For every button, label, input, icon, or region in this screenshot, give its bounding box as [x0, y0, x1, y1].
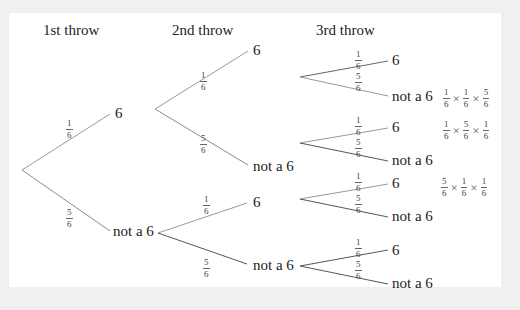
node-t2-not-six-a: not a 6	[253, 159, 294, 174]
header-1st-throw: 1st throw	[43, 23, 99, 38]
prob-t3-4-not-six: 56	[355, 260, 362, 281]
prob-t2b-not-six: 56	[203, 258, 210, 279]
node-t2-six-a: 6	[253, 43, 261, 58]
node-t3-3: 6	[392, 120, 400, 135]
times-icon: ×	[472, 91, 479, 107]
node-t3-8: not a 6	[392, 276, 433, 291]
node-t1-six: 6	[115, 106, 123, 121]
prob-t3-4-six: 16	[355, 238, 362, 259]
node-t2-six-b: 6	[253, 195, 261, 210]
prob-t3-3-not-six: 56	[355, 194, 362, 215]
prob-t1-not-six: 56	[66, 208, 73, 229]
times-icon: ×	[453, 123, 460, 139]
node-t3-6: not a 6	[392, 209, 433, 224]
prob-t2a-not-six: 56	[200, 134, 207, 155]
times-icon: ×	[453, 91, 460, 107]
node-t1-not-six: not a 6	[113, 224, 154, 239]
node-t3-5: 6	[392, 176, 400, 191]
node-t3-1: 6	[392, 53, 400, 68]
product-3: 56 × 16 × 16	[441, 177, 487, 198]
prob-t3-1-not-six: 56	[355, 72, 362, 93]
times-icon: ×	[470, 180, 477, 196]
prob-t3-2-not-six: 56	[355, 138, 362, 159]
product-2: 16 × 56 × 16	[443, 120, 489, 141]
prob-t2b-six: 16	[203, 195, 210, 216]
times-icon: ×	[451, 180, 458, 196]
node-t3-4: not a 6	[392, 153, 433, 168]
prob-t3-1-six: 16	[355, 50, 362, 71]
prob-t1-six: 16	[66, 119, 73, 140]
prob-t2a-six: 16	[200, 71, 207, 92]
node-t2-not-six-b: not a 6	[253, 258, 294, 273]
header-2nd-throw: 2nd throw	[172, 23, 233, 38]
header-3rd-throw: 3rd throw	[316, 23, 375, 38]
prob-t3-2-six: 16	[355, 116, 362, 137]
product-1: 16 × 16 × 56	[443, 88, 489, 109]
prob-t3-3-six: 16	[355, 172, 362, 193]
node-t3-7: 6	[392, 243, 400, 258]
node-t3-2: not a 6	[392, 89, 433, 104]
times-icon: ×	[472, 123, 479, 139]
